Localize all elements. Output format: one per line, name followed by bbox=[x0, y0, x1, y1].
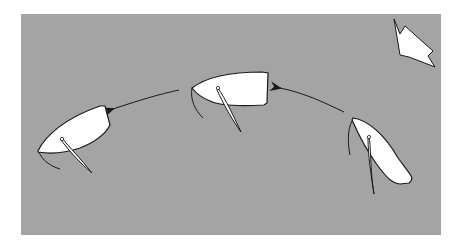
boat-3-hull bbox=[38, 106, 110, 153]
path-arrow-1 bbox=[280, 88, 344, 112]
boat-1-wake bbox=[348, 121, 352, 155]
boat-1 bbox=[348, 118, 412, 194]
boat-3-wake bbox=[39, 152, 60, 169]
path-arrow-2 bbox=[113, 90, 179, 109]
boat-3-mast bbox=[60, 137, 63, 140]
maneuver-diagram bbox=[0, 0, 461, 248]
boat-3 bbox=[38, 106, 110, 173]
wind-arrow-icon bbox=[394, 19, 435, 67]
boat-1-hull bbox=[352, 118, 412, 184]
boat-1-mast bbox=[367, 135, 370, 138]
boat-2 bbox=[192, 72, 268, 132]
boat-2-hull bbox=[192, 72, 268, 106]
boat-2-mast bbox=[216, 86, 219, 89]
diagram-page: Dinghy bearing away sequence: three boat… bbox=[0, 0, 461, 248]
